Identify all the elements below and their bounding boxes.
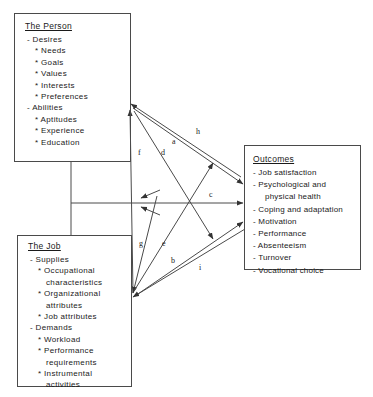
- node-the-job-title: The Job: [28, 241, 125, 251]
- list-item: * Needs: [25, 45, 124, 56]
- list-item: - Vocational choice: [253, 265, 356, 277]
- edge-d-line: [134, 111, 213, 239]
- list-item: attributes: [28, 300, 125, 311]
- list-item: * Values: [25, 68, 124, 79]
- edge-e-return: [141, 207, 160, 215]
- list-item: - Demands: [28, 322, 125, 333]
- list-item: * Performance: [28, 345, 125, 356]
- list-item: * Workload: [28, 334, 125, 345]
- node-the-person-list: - Desires * Needs * Goals * Values * Int…: [25, 34, 124, 148]
- list-item: - Job satisfaction: [253, 167, 356, 179]
- node-outcomes-title: Outcomes: [253, 154, 356, 164]
- list-item: * Organizational: [28, 288, 125, 299]
- list-item: - Motivation: [253, 216, 356, 228]
- diagram-canvas: The Person - Desires * Needs * Goals * V…: [0, 0, 373, 397]
- list-item: * Occupational: [28, 265, 125, 276]
- edge-label-a: a: [172, 137, 176, 146]
- list-item: * Preferences: [25, 91, 124, 102]
- list-item: - Psychological and: [253, 179, 356, 191]
- node-outcomes[interactable]: Outcomes - Job satisfaction - Psychologi…: [244, 145, 361, 270]
- node-the-job-list: - Supplies * Occupational characteristic…: [28, 254, 125, 391]
- list-item: * Interests: [25, 80, 124, 91]
- list-item: requirements: [28, 357, 125, 368]
- list-item: * Instrumental: [28, 368, 125, 379]
- list-item: - Supplies: [28, 254, 125, 265]
- list-item: physical health: [253, 191, 356, 203]
- node-the-job[interactable]: The Job - Supplies * Occupational charac…: [17, 235, 132, 387]
- list-item: activities: [28, 379, 125, 390]
- node-the-person[interactable]: The Person - Desires * Needs * Goals * V…: [14, 13, 131, 162]
- edge-label-e: e: [162, 239, 166, 248]
- list-item: characteristics: [28, 277, 125, 288]
- edge-a-line: [131, 104, 241, 177]
- list-item: - Desires: [25, 34, 124, 45]
- list-item: - Coping and adaptation: [253, 204, 356, 216]
- list-item: * Job attributes: [28, 311, 125, 322]
- edge-h-line: [133, 108, 243, 184]
- list-item: * Experience: [25, 125, 124, 136]
- list-item: - Absenteeism: [253, 240, 356, 252]
- edge-label-g: g: [139, 239, 143, 248]
- list-item: - Performance: [253, 228, 356, 240]
- edge-b-line: [135, 222, 243, 296]
- list-item: - Abilities: [25, 102, 124, 113]
- edge-label-h: h: [196, 127, 200, 136]
- edge-label-c: c: [209, 190, 213, 199]
- node-the-person-title: The Person: [25, 21, 124, 31]
- edge-label-b: b: [171, 256, 175, 265]
- node-outcomes-list: - Job satisfaction - Psychological and p…: [253, 167, 356, 277]
- edge-label-f: f: [138, 148, 141, 157]
- list-item: * Goals: [25, 57, 124, 68]
- list-item: * Aptitudes: [25, 114, 124, 125]
- list-item: - Turnover: [253, 252, 356, 264]
- list-item: * Education: [25, 137, 124, 148]
- edge-g-line: [133, 196, 157, 293]
- edge-label-d: d: [161, 148, 165, 157]
- edge-label-i: i: [199, 263, 201, 272]
- edge-i-line: [133, 229, 245, 297]
